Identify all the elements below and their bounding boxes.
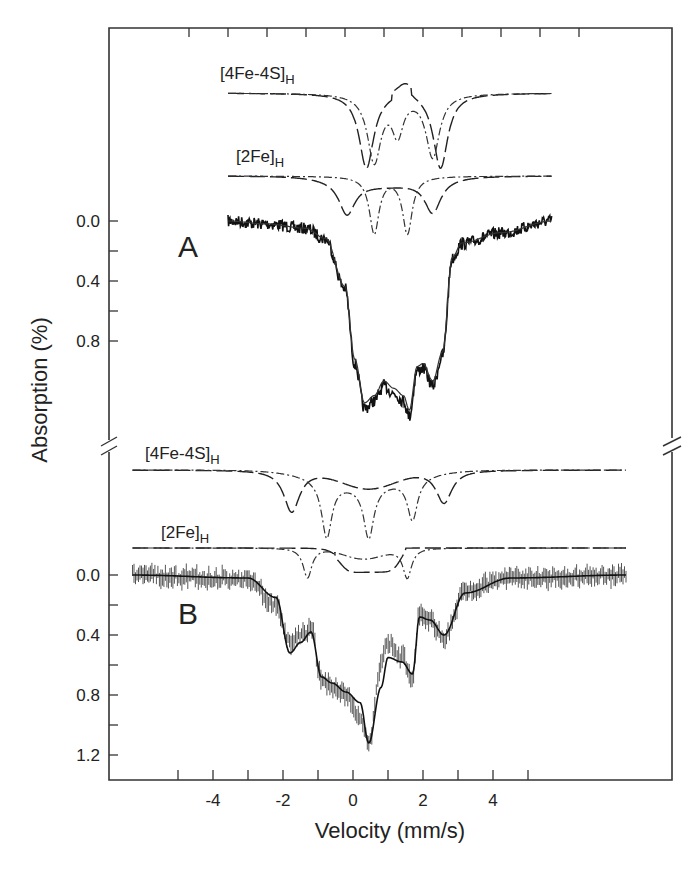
label-a-2fe: [2Fe]H bbox=[236, 147, 284, 170]
y-tick-label-a: 0.8 bbox=[76, 332, 100, 351]
y-tick-label-b: 0.4 bbox=[76, 626, 100, 645]
panel-a-curves bbox=[228, 84, 552, 421]
x-tick-label: -2 bbox=[275, 791, 290, 810]
x-axis-label: Velocity (mm/s) bbox=[315, 818, 465, 843]
x-tick-label: 2 bbox=[418, 791, 427, 810]
panel-label-b: B bbox=[178, 597, 198, 630]
label-b-2fe: [2Fe]H bbox=[161, 523, 209, 546]
mossbauer-figure: -4-20240.00.40.80.00.40.81.2 Absorption … bbox=[0, 0, 700, 876]
y-axis-label: Absorption (%) bbox=[27, 317, 52, 463]
y-tick-label-a: 0.0 bbox=[76, 212, 100, 231]
y-tick-label-b: 0.8 bbox=[76, 686, 100, 705]
panel-b-curves bbox=[133, 470, 627, 751]
label-b-4fe4s: [4Fe-4S]H bbox=[145, 444, 220, 467]
label-a-4fe4s: [4Fe-4S]H bbox=[220, 64, 295, 87]
x-tick-label: -4 bbox=[205, 791, 220, 810]
y-tick-label-a: 0.4 bbox=[76, 272, 100, 291]
x-tick-label: 0 bbox=[348, 791, 357, 810]
y-tick-label-b: 0.0 bbox=[76, 566, 100, 585]
axis-ticks bbox=[109, 28, 579, 780]
plot-frame bbox=[109, 28, 672, 780]
axis-tick-labels: -4-20240.00.40.80.00.40.81.2 bbox=[76, 212, 497, 810]
panel-label-a: A bbox=[178, 230, 198, 263]
y-tick-label-b: 1.2 bbox=[76, 746, 100, 765]
x-tick-label: 4 bbox=[488, 791, 497, 810]
